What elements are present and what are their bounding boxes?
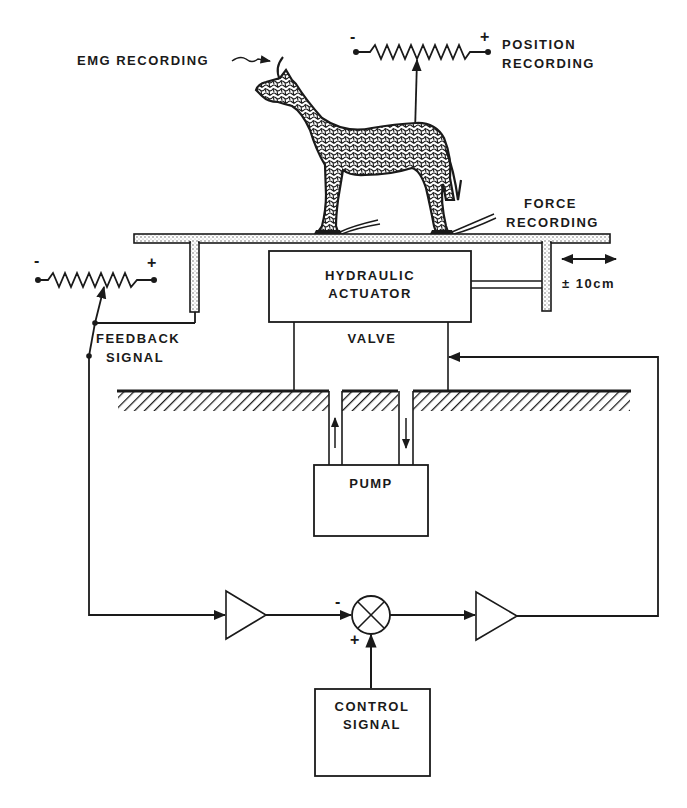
feedback-pot-minus-sign: - xyxy=(34,252,41,269)
ground-hatch xyxy=(117,391,631,411)
diagram-canvas: - + POSITION RECORDING EMG RECORDING FOR… xyxy=(0,0,687,808)
hydraulic-actuator-label-2: ACTUATOR xyxy=(328,286,412,301)
hydraulic-actuator-label-1: HYDRAULIC xyxy=(325,268,415,283)
displacement-label: ± 10cm xyxy=(562,276,615,291)
force-recording-label-2: RECORDING xyxy=(506,215,599,230)
feedback-signal-label-1: FEEDBACK xyxy=(96,331,180,346)
position-recording-label-2: RECORDING xyxy=(502,56,595,71)
emg-recording-label: EMG RECORDING xyxy=(77,53,209,68)
position-pot-minus-sign: - xyxy=(350,28,357,45)
control-signal-label-1: CONTROL xyxy=(335,699,410,714)
summing-junction-icon xyxy=(352,596,390,634)
valve-label: VALVE xyxy=(348,331,397,346)
feedback-pot-plus-sign: + xyxy=(147,254,158,271)
emg-lead-icon xyxy=(232,57,270,61)
control-signal-label-2: SIGNAL xyxy=(343,717,401,732)
feedback-signal-label-2: SIGNAL xyxy=(106,350,164,365)
actuator-rod xyxy=(471,281,542,288)
position-potentiometer xyxy=(353,45,491,132)
position-recording-label-1: POSITION xyxy=(502,37,576,52)
feedback-amplifier-icon xyxy=(226,591,266,639)
summer-plus-sign: + xyxy=(350,631,361,648)
dog-icon xyxy=(256,70,461,234)
position-pot-plus-sign: + xyxy=(480,28,491,45)
drive-amplifier-icon xyxy=(476,592,517,640)
summer-minus-sign: - xyxy=(335,593,342,610)
force-plate-leads xyxy=(340,214,496,234)
pump-label: PUMP xyxy=(349,476,393,491)
force-recording-label-1: FORCE xyxy=(524,196,577,211)
